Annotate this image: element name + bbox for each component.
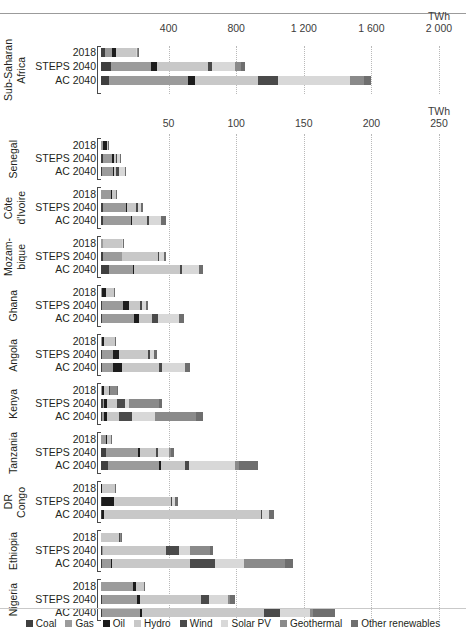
bar-row-label: 2018: [18, 483, 96, 494]
bar-segment-solarpv: [278, 76, 350, 85]
bar-row-label: STEPS 2040: [18, 496, 96, 507]
bar-segment-gas: [108, 461, 159, 470]
legend-item-wind[interactable]: Wind: [180, 618, 213, 629]
bar-segment-coal: [101, 62, 111, 71]
bar-segment-otherren: [141, 203, 142, 212]
gridline: [439, 134, 440, 620]
bar-segment-otherren: [179, 314, 184, 323]
bar-segment-otherren: [123, 239, 124, 248]
bar-segment-hydro: [104, 337, 115, 346]
bar-segment-solarpv: [162, 363, 185, 372]
legend-divider: [0, 608, 466, 609]
bar-segment-gas: [102, 350, 113, 359]
stacked-bar: [101, 190, 116, 199]
legend-item-geothermal[interactable]: Geothermal: [280, 618, 342, 629]
bar-segment-otherren: [210, 546, 213, 555]
bar-segment-hydro: [112, 559, 190, 568]
bar-segment-hydro: [114, 497, 171, 506]
bar-segment-gas: [102, 314, 134, 323]
legend-item-otherren[interactable]: Other renewables: [351, 618, 440, 629]
stacked-bar: [101, 167, 126, 176]
gridline: [371, 134, 372, 620]
legend-swatch-gas-icon: [65, 620, 72, 627]
bar-segment-gas: [111, 62, 151, 71]
bar-segment-otherren: [115, 484, 116, 493]
gridline: [304, 46, 305, 94]
country-label: Mozam-: [3, 238, 15, 276]
bar-row-label: STEPS 2040: [18, 349, 96, 360]
bar-segment-hydro: [107, 399, 116, 408]
axis-unit-text: TWh: [416, 11, 462, 23]
bar-segment-hydro: [104, 510, 261, 519]
legend-item-hydro[interactable]: Hydro: [134, 618, 171, 629]
bar-row-label: STEPS 2040: [18, 545, 96, 556]
legend-label: Other renewables: [361, 618, 440, 629]
bar-segment-gas: [103, 154, 112, 163]
bar-segment-hydro: [127, 203, 136, 212]
bar-segment-hydro: [116, 48, 136, 57]
axis-tick-text: 250: [416, 118, 462, 130]
bar-segment-otherren: [164, 252, 166, 261]
axis-tick-text: 2 000: [416, 23, 462, 35]
bar-row-label: STEPS 2040: [18, 251, 96, 262]
bar-segment-wind: [117, 399, 125, 408]
legend-item-gas[interactable]: Gas: [65, 618, 93, 629]
bar-segment-solarpv: [262, 510, 269, 519]
legend-swatch-oil-icon: [103, 620, 110, 627]
bar-segment-otherren: [125, 167, 127, 176]
stacked-bar: [101, 203, 143, 212]
bar-row-label: STEPS 2040: [18, 398, 96, 409]
stacked-bar: [101, 533, 122, 542]
stacked-bar: [101, 546, 213, 555]
legend-item-oil[interactable]: Oil: [103, 618, 125, 629]
bar-segment-otherren: [196, 412, 203, 421]
bar-segment-gas: [106, 448, 138, 457]
stacked-bar: [101, 216, 166, 225]
bar-segment-hydro: [119, 350, 149, 359]
bar-row-label: AC 2040: [18, 264, 96, 275]
bar-segment-hydro: [107, 412, 120, 421]
bar-row-label: STEPS 2040: [18, 447, 96, 458]
bar-segment-oil: [102, 497, 114, 506]
bar-segment-solarpv: [149, 216, 161, 225]
stacked-bar: [101, 62, 245, 71]
bar-segment-gas: [101, 190, 111, 199]
bar-segment-otherren: [146, 301, 148, 310]
bar-segment-gas: [102, 559, 111, 568]
bar-segment-hydro: [129, 301, 140, 310]
legend-label: Hydro: [144, 618, 171, 629]
bar-segment-coal: [101, 76, 109, 85]
bar-segment-gas: [101, 582, 133, 591]
stacked-bar: [101, 412, 203, 421]
legend-label: Gas: [75, 618, 93, 629]
bar-segment-solarpv: [215, 559, 245, 568]
bar-segment-hydro: [122, 363, 159, 372]
legend-label: Wind: [190, 618, 213, 629]
bar-segment-wind: [190, 559, 214, 568]
bar-segment-otherren: [108, 141, 109, 150]
bar-segment-otherren: [199, 265, 203, 274]
legend-item-solarpv[interactable]: Solar PV: [221, 618, 270, 629]
bar-segment-gas: [103, 216, 131, 225]
bar-row-label: STEPS 2040: [18, 153, 96, 164]
bar-segment-hydro: [161, 461, 185, 470]
bar-segment-solarpv: [209, 595, 228, 604]
bar-row-label: AC 2040: [18, 460, 96, 471]
bar-segment-coal: [101, 265, 109, 274]
stacked-bar: [101, 448, 174, 457]
bar-row-label: 2018: [18, 47, 96, 58]
stacked-bar: [101, 154, 121, 163]
bar-segment-solarpv: [182, 265, 198, 274]
bar-segment-otherren: [144, 582, 145, 591]
legend-swatch-otherren-icon: [351, 620, 358, 627]
legend-label: Oil: [113, 618, 125, 629]
bar-segment-solarpv: [212, 62, 235, 71]
legend-item-coal[interactable]: Coal: [26, 618, 57, 629]
bar-segment-hydro: [101, 533, 119, 542]
stacked-bar: [101, 386, 118, 395]
bar-segment-otherren: [121, 533, 122, 542]
bar-row-label: 2018: [18, 385, 96, 396]
bar-row-label: 2018: [18, 532, 96, 543]
stacked-bar: [101, 497, 178, 506]
bar-row-label: AC 2040: [18, 509, 96, 520]
